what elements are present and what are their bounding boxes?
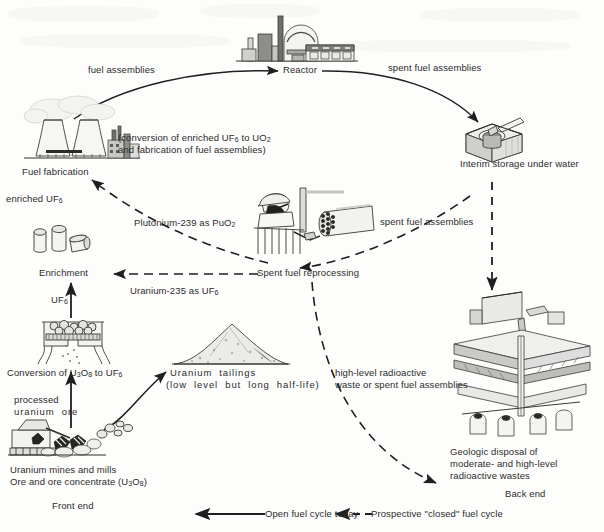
label-spent-fuel-to-reprocessing: spent fuel assemblies — [380, 216, 473, 228]
nuclear-fuel-cycle-diagram: fuel assemblies Reactor spent fuel assem… — [0, 0, 604, 532]
label-plutonium-239: Plutonium-239 as PuO2 — [134, 217, 236, 231]
arrow-spent-fuel-to-interim-storage — [322, 71, 478, 122]
legend-closed-fuel-cycle: Prospective "closed" fuel cycle — [371, 508, 503, 520]
label-uranium-235: Uranium-235 as UF6 — [130, 285, 219, 299]
uranium-tailings-illustration — [170, 318, 292, 368]
fuel-pellets-illustration — [26, 218, 102, 262]
label-uranium-tailings-note: (low level but long half-life) — [166, 379, 320, 391]
label-uranium-tailings: Uranium tailings — [170, 367, 256, 379]
label-fuel-fabrication: Fuel fabrication — [22, 166, 89, 178]
label-back-end: Back end — [505, 488, 545, 500]
label-hlw-line2: waste or spent fuel assemblies — [335, 379, 468, 391]
label-spent-fuel-to-interim-storage: spent fuel assemblies — [388, 62, 481, 74]
label-uf6: UF6 — [51, 294, 68, 308]
geologic-disposal-illustration — [452, 290, 592, 450]
label-interim-storage: Interim storage under water — [460, 158, 579, 170]
label-enrichment: Enrichment — [39, 267, 88, 279]
spent-fuel-reprocessing-illustration — [244, 186, 384, 264]
label-hlw-line1: high-level radioactive — [335, 367, 426, 379]
label-processed-ore-line1: processed — [14, 394, 59, 406]
label-fuel-fabrication-note-line2: and fabrication of fuel assemblies) — [118, 144, 266, 156]
label-conversion: Conversion of U3O8 to UF6 — [7, 367, 123, 381]
label-front-end: Front end — [52, 500, 94, 512]
conversion-plant-illustration — [34, 312, 114, 368]
label-geologic-disposal-line2: moderate- and high-level — [450, 458, 558, 470]
label-processed-ore-line2: uranium ore — [14, 406, 78, 418]
label-reactor: Reactor — [283, 64, 317, 76]
label-enriched-uf6: enriched UF6 — [6, 193, 63, 207]
label-fuel-assemblies-to-reactor: fuel assemblies — [88, 64, 155, 76]
label-geologic-disposal-line3: radioactive wastes — [450, 470, 530, 482]
label-ore-concentrate: Ore and ore concentrate (U3O8) — [10, 476, 147, 490]
label-geologic-disposal-line1: Geologic disposal of — [450, 446, 538, 458]
label-uranium-mines-and-mills: Uranium mines and mills — [10, 464, 116, 476]
reactor-illustration — [232, 12, 362, 64]
label-spent-fuel-reprocessing: Spent fuel reprocessing — [257, 267, 359, 279]
legend-open-fuel-cycle: Open fuel cycle today — [265, 508, 358, 520]
